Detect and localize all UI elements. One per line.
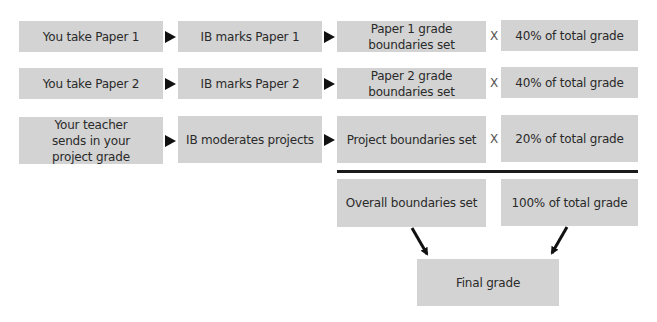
arrow-down-left-icon (552, 227, 567, 253)
final-grade-label: Final grade (456, 275, 520, 291)
final-grade-box: Final grade (417, 259, 559, 306)
arrow-down-right-icon (412, 228, 427, 254)
